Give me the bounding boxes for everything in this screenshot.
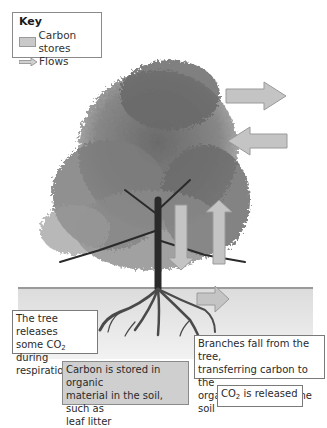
respiration-line-1: The tree releases: [16, 312, 94, 338]
respiration-text: during: [16, 352, 48, 363]
respiration-label: The tree releases some CO2 during respir…: [12, 310, 98, 354]
soil-store-line-3: leaf litter: [66, 415, 185, 428]
co2-released-label: CO2 is released: [217, 385, 303, 407]
soil-store-line-2: material in the soil, such as: [66, 389, 185, 415]
co2-text: CO: [221, 388, 236, 399]
soil-carbon-store-label: Carbon is stored in organic material in …: [62, 361, 189, 405]
soil-store-line-1: Carbon is stored in organic: [66, 363, 185, 389]
co2-text: is released: [240, 388, 297, 399]
branches-fall-label: Branches fall from the tree, transferrin…: [194, 335, 325, 379]
subscript: 2: [61, 344, 65, 352]
flow-arrow-co2-out: [226, 82, 286, 110]
respiration-text: some CO: [16, 339, 61, 350]
branches-line-1: Branches fall from the tree,: [198, 337, 321, 363]
